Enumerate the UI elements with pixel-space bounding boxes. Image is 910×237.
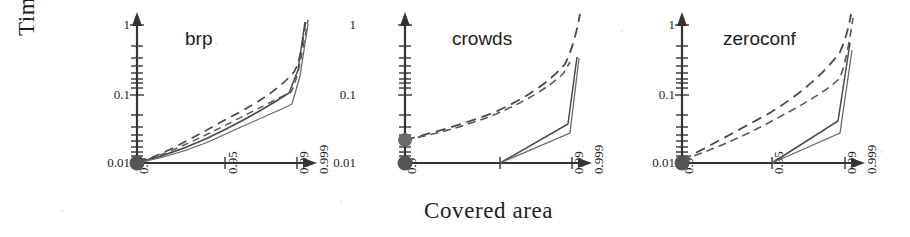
series-dashed-1-crowds: [405, 14, 580, 140]
secondary-marker-crowds: [398, 133, 412, 147]
origin-marker-brp: [130, 156, 145, 171]
series-dashed-2-crowds: [405, 62, 570, 140]
figure-three-panel-line-charts: Time Covered area brp 1 0.1 0.01 0.9 0.9…: [0, 0, 910, 237]
origin-marker-zeroconf: [675, 156, 690, 171]
scan-speckle: [30, 18, 33, 20]
origin-marker-crowds: [398, 156, 413, 171]
scan-speckle: [620, 30, 623, 32]
panel-plot-crowds: [270, 0, 610, 237]
panel-crowds: crowds 1 0.1 0.01 0.9 0.99 0.999: [270, 0, 610, 237]
scan-speckle: [880, 150, 883, 153]
panel-plot-zeroconf: [560, 0, 910, 237]
series-dashed-1-zeroconf: [682, 14, 851, 160]
scan-speckle: [340, 200, 343, 203]
scan-speckle: [60, 210, 64, 212]
scan-speckle: [215, 42, 219, 45]
panel-zeroconf: zeroconf 1 0.1 0.01 0.9 0.95 0.99 0.999: [560, 0, 910, 237]
